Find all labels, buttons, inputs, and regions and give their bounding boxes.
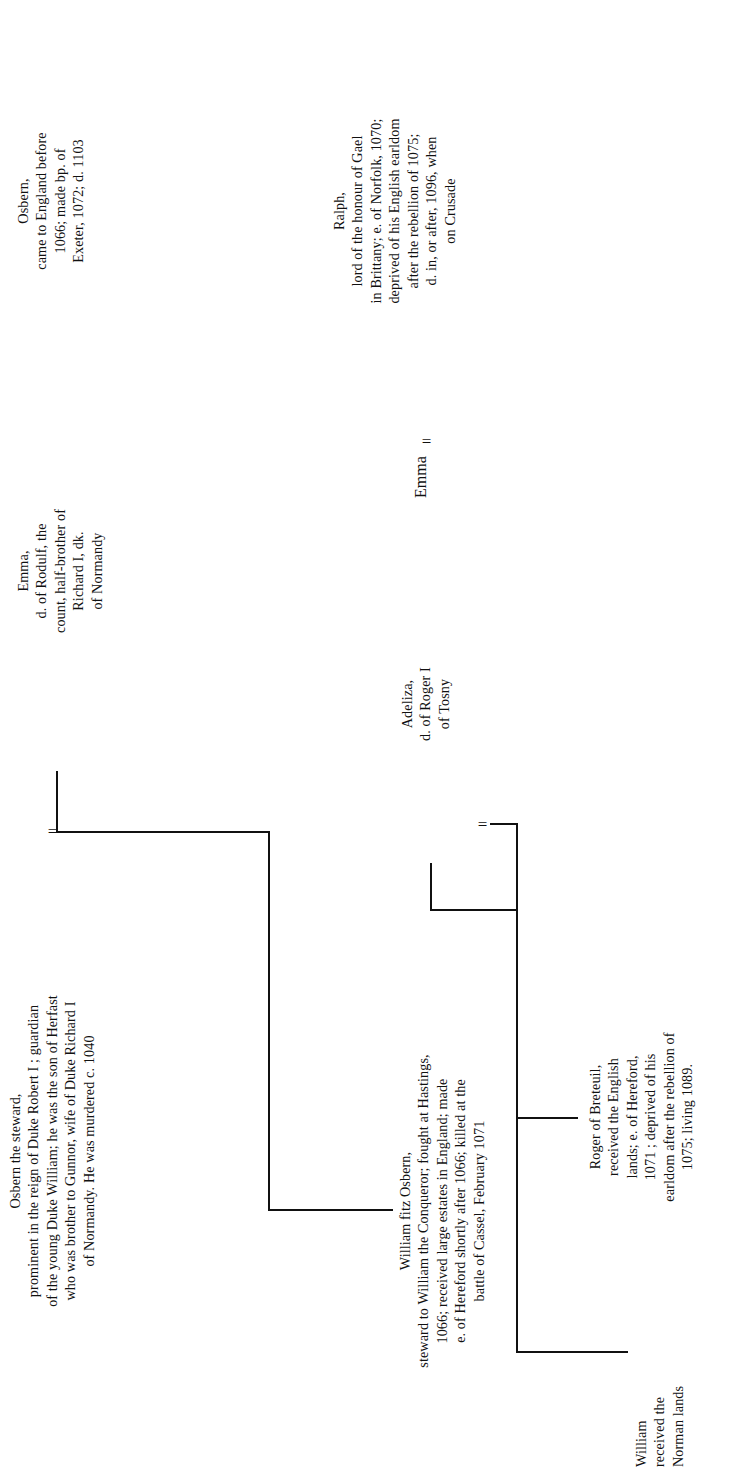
node-osbern-exeter-name: Osbern, <box>14 41 32 361</box>
marriage-sign-osbern-emma: = <box>48 823 58 840</box>
node-emma-rodulf-line-3: Richard I, dk. <box>69 421 87 721</box>
node-osbern-exeter-line-2: 1066; made bp. of <box>51 41 69 361</box>
node-roger-of-breteuil-line-4: earldom after the rebellion of <box>660 967 678 1267</box>
node-ralph-of-gael-line-5: d. in, or after, 1096, when <box>422 31 440 391</box>
connector-gen2-emma-stub <box>430 863 432 911</box>
node-roger-of-breteuil-name: Roger of Breteuil, <box>586 967 604 1267</box>
node-ralph-of-gael-line-3: deprived of his English earldom <box>385 31 403 391</box>
marriage-sign-william-adeliza: = <box>478 816 488 833</box>
node-ralph-of-gael-name: Ralph, <box>330 31 348 391</box>
connector-gen1-spine <box>268 831 270 1211</box>
node-william-fitz-osbern-line-4: battle of Cassel, February 1071 <box>470 941 488 1481</box>
connector-gen2-branch-emma <box>430 909 518 911</box>
node-emma-rodulf-line-1: d. of Rodulf, the <box>32 421 50 721</box>
node-roger-of-breteuil-line-1: received the English <box>604 967 622 1267</box>
node-osbern-exeter: Osbern, came to England before 1066; mad… <box>14 41 88 361</box>
node-osbern-steward-line-4: of Normandy. He was murdered c. 1040 <box>80 901 98 1401</box>
connector-gen2-branch-william <box>516 1351 628 1353</box>
node-roger-of-breteuil-line-3: 1071 ; deprived of his <box>641 967 659 1267</box>
node-emma-rodulf-name: Emma, <box>14 421 32 721</box>
genealogy-chart: = = = Osbern the steward, prominent in t… <box>0 0 753 1481</box>
node-osbern-steward: Osbern the steward, prominent in the rei… <box>6 901 98 1401</box>
node-roger-of-breteuil-line-5: 1075; living 1089. <box>678 967 696 1267</box>
connector-gen1-stem <box>58 831 270 833</box>
node-ralph-of-gael-line-2: in Brittany; e. of Norfolk, 1070; <box>367 31 385 391</box>
node-adeliza-tosny: Adeliza, d. of Roger I of Tosny <box>398 599 453 809</box>
node-roger-of-breteuil: Roger of Breteuil, received the English … <box>586 967 697 1267</box>
connector-gen2-spine <box>516 823 518 1353</box>
node-emma-rodulf-line-2: count, half-brother of <box>51 421 69 721</box>
connector-gen2-branch-roger <box>516 1117 578 1119</box>
node-william-fitz-osbern-name: William fitz Osbern, <box>396 941 414 1481</box>
node-adeliza-tosny-line-1: d. of Roger I <box>416 599 434 809</box>
node-william-fitz-osbern: William fitz Osbern, steward to William … <box>396 941 488 1481</box>
node-emma-rodulf-line-4: of Normandy <box>88 421 106 721</box>
connector-gen2-riser <box>490 823 518 825</box>
marriage-sign-emma-ralph: = <box>422 433 432 450</box>
node-osbern-steward-line-1: prominent in the reign of Duke Robert I … <box>24 901 42 1401</box>
node-ralph-of-gael-line-1: lord of the honour of Gael <box>348 31 366 391</box>
node-william-fitz-osbern-line-2: 1066; received large estates in England;… <box>433 941 451 1481</box>
node-osbern-exeter-line-3: Exeter, 1072; d. 1103 <box>69 41 87 361</box>
node-osbern-exeter-line-1: came to England before <box>32 41 50 361</box>
node-ralph-of-gael-line-4: after the rebellion of 1075; <box>404 31 422 391</box>
node-adeliza-tosny-name: Adeliza, <box>398 599 416 809</box>
node-emma-rodulf: Emma, d. of Rodulf, the count, half-brot… <box>14 421 106 721</box>
node-emma-2: Emma <box>412 456 430 498</box>
node-william-fitz-osbern-line-3: e. of Hereford shortly after 1066; kille… <box>451 941 469 1481</box>
node-osbern-steward-line-3: who was brother to Gunnor, wife of Duke … <box>61 901 79 1401</box>
node-ralph-of-gael-line-6: on Crusade <box>441 31 459 391</box>
node-william-fitz-osbern-line-1: steward to William the Conqueror; fought… <box>414 941 432 1481</box>
node-ralph-of-gael: Ralph, lord of the honour of Gael in Bri… <box>330 31 459 391</box>
node-roger-of-breteuil-line-2: lands; e. of Hereford, <box>623 967 641 1267</box>
node-osbern-steward-name: Osbern the steward, <box>6 901 24 1401</box>
node-osbern-steward-line-2: of the young Duke William; he was the so… <box>43 901 61 1401</box>
connector-gen1-branch-william <box>268 1209 393 1211</box>
node-adeliza-tosny-line-2: of Tosny <box>435 599 453 809</box>
